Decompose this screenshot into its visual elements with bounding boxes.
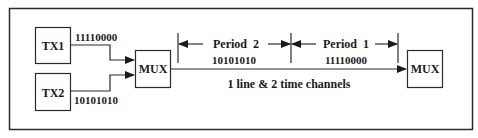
- period2-bits: 10101010: [212, 54, 257, 66]
- tx1-block: TX1: [36, 28, 71, 64]
- mux-left-block: MUX: [136, 51, 171, 88]
- tx2-label: TX2: [42, 86, 65, 100]
- mux-right-block: MUX: [408, 51, 443, 88]
- period1-bits: 11110000: [325, 54, 368, 66]
- tx2-bits: 10101010: [74, 94, 119, 106]
- period1-label: Period 1: [323, 37, 369, 51]
- tx2-block: TX2: [36, 74, 71, 111]
- tx2-connector: [71, 75, 135, 91]
- line-caption: 1 line & 2 time channels: [228, 77, 351, 91]
- mux-right-label: MUX: [411, 62, 440, 76]
- tdm-diagram: TX1 TX2 11110000 10101010 MUX Period 2 1…: [0, 0, 478, 138]
- tx1-bits: 11110000: [75, 31, 118, 43]
- tx1-connector: [71, 45, 135, 60]
- tx1-label: TX1: [42, 39, 65, 53]
- mux-left-label: MUX: [139, 62, 168, 76]
- period2-label: Period 2: [213, 37, 259, 51]
